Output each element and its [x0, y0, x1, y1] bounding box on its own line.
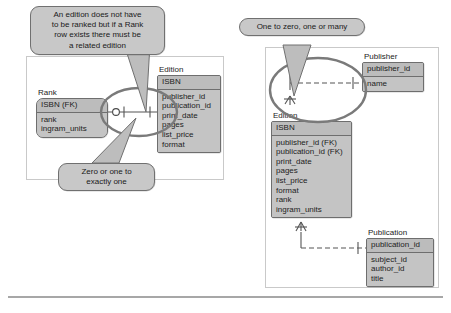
entity-edition-left-key-section: ISBN — [158, 76, 220, 90]
field-isbn: ISBN — [276, 123, 347, 133]
field-publication-id: publication_id — [162, 101, 216, 111]
entity-edition-right-title: Edition — [273, 111, 352, 120]
field-format: format — [276, 186, 347, 196]
entity-publisher-fields: name — [363, 77, 423, 92]
field-pages: pages — [276, 166, 347, 176]
entity-publisher[interactable]: Publisher publisher_id name — [362, 52, 424, 92]
field-publication-id-pk: publication_id — [371, 240, 429, 250]
callout-rank-edition: An edition does not have to be ranked bu… — [30, 6, 165, 55]
field-publication-id-fk: publication_id (FK) — [276, 147, 347, 157]
entity-rank-key-section: ISBN (FK) — [37, 99, 107, 113]
entity-publisher-box: publisher_id name — [362, 62, 424, 92]
field-publisher-id-pk: publisher_id — [367, 64, 419, 74]
entity-publication-key-section: publication_id — [367, 239, 433, 253]
callout-one-to-many-text: One to zero, one or many — [240, 19, 364, 35]
field-pages: pages — [162, 120, 216, 130]
field-print-date: print_date — [162, 111, 216, 121]
callout-one-to-many: One to zero, one or many — [239, 18, 365, 36]
field-name: name — [367, 79, 419, 89]
field-rank: rank — [276, 195, 347, 205]
entity-publication-fields: subject_id author_id title — [367, 253, 433, 287]
entity-rank[interactable]: Rank ISBN (FK) rank ingram_units — [36, 88, 108, 138]
entity-edition-left[interactable]: Edition ISBN publisher_id publication_id… — [157, 65, 221, 153]
entity-publication-box: publication_id subject_id author_id titl… — [366, 238, 434, 287]
callout-rank-edition-text: An edition does not have to be ranked bu… — [31, 7, 164, 54]
field-ingram-units: ingram_units — [41, 124, 103, 134]
entity-rank-box: ISBN (FK) rank ingram_units — [36, 98, 108, 138]
entity-rank-fields: rank ingram_units — [37, 113, 107, 137]
field-publisher-id-fk: publisher_id (FK) — [276, 138, 347, 148]
field-publisher-id: publisher_id — [162, 92, 216, 102]
entity-edition-right-key-section: ISBN — [272, 122, 351, 136]
field-format: format — [162, 140, 216, 150]
field-rank: rank — [41, 115, 103, 125]
field-ingram-units: ingram_units — [276, 205, 347, 215]
field-subject-id: subject_id — [371, 255, 429, 265]
entity-publisher-title: Publisher — [364, 52, 424, 61]
field-print-date: print_date — [276, 157, 347, 167]
entity-edition-right-box: ISBN publisher_id (FK) publication_id (F… — [271, 121, 352, 218]
field-isbn: ISBN — [162, 77, 216, 87]
callout-zero-or-one-text: Zero or one to exactly one — [59, 164, 154, 190]
entity-edition-left-title: Edition — [159, 65, 221, 74]
diagram-canvas: Rank ISBN (FK) rank ingram_units Edition… — [0, 0, 451, 313]
entity-edition-left-fields: publisher_id publication_id print_date p… — [158, 90, 220, 153]
entity-publication-title: Publication — [368, 228, 434, 237]
callout-zero-or-one: Zero or one to exactly one — [58, 163, 155, 191]
entity-edition-left-box: ISBN publisher_id publication_id print_d… — [157, 75, 221, 153]
entity-publisher-key-section: publisher_id — [363, 63, 423, 77]
entity-edition-right-fields: publisher_id (FK) publication_id (FK) pr… — [272, 136, 351, 218]
field-author-id: author_id — [371, 264, 429, 274]
entity-publication[interactable]: Publication publication_id subject_id au… — [366, 228, 434, 287]
field-title: title — [371, 274, 429, 284]
entity-rank-title: Rank — [38, 88, 108, 97]
entity-edition-right[interactable]: Edition ISBN publisher_id (FK) publicati… — [271, 111, 352, 218]
field-list-price: list_price — [162, 130, 216, 140]
field-isbn-fk: ISBN (FK) — [41, 100, 103, 110]
field-list-price: list_price — [276, 176, 347, 186]
